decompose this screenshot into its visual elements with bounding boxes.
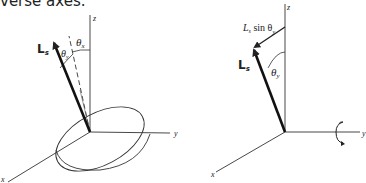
theta-y-label-left: θy xyxy=(61,48,69,60)
x-label-right: x xyxy=(210,170,215,179)
z-label-right: z xyxy=(286,3,291,12)
left-diagram: z y x Ls θx θy xyxy=(0,14,178,183)
y-label-left: y xyxy=(173,129,178,138)
theta-x-label: θx xyxy=(76,36,85,50)
x-label-left: x xyxy=(0,175,5,183)
ls-label-right: Ls xyxy=(238,58,250,73)
y-axis-left xyxy=(90,132,170,133)
theta-y-label-right: θy xyxy=(271,66,280,80)
x-axis-left xyxy=(8,132,90,182)
diagram-figure: verse axes. xyxy=(0,0,366,183)
y-label-right: y xyxy=(361,129,366,138)
ls-vector-left xyxy=(54,43,90,132)
ls-label-left: Ls xyxy=(37,42,49,57)
ls-vector-right xyxy=(254,50,285,132)
precession-disk xyxy=(45,94,154,183)
rotation-arrow-icon xyxy=(336,122,345,146)
theta-x-arc xyxy=(72,50,90,52)
caption-text: verse axes. xyxy=(0,0,86,10)
right-diagram: z y x Ls sin θy Ls θy xyxy=(210,3,366,179)
component-label: Ls sin θy xyxy=(242,22,275,35)
diagram-svg: z y x Ls θx θy xyxy=(0,0,366,183)
z-label-left: z xyxy=(92,14,97,23)
x-axis-right xyxy=(216,132,285,172)
